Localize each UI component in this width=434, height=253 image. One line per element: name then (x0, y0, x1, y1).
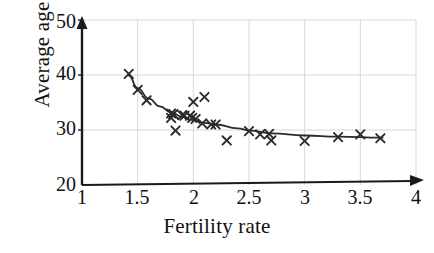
fitted-curve (129, 76, 383, 138)
x-tick-label-1-5: 1.5 (117, 186, 157, 209)
gridlines (82, 20, 416, 185)
x-tick-label-4: 4 (396, 186, 434, 209)
x-tick-label-2-5: 2.5 (229, 186, 269, 209)
y-tick-label-30: 30 (30, 117, 76, 140)
x-axis-line (82, 181, 413, 185)
x-axis-label: Fertility rate (0, 214, 434, 239)
y-tick-label-50: 50 (30, 10, 76, 33)
data-point-marker (125, 70, 133, 78)
y-axis-arrow (77, 16, 88, 29)
x-axis-arrow (410, 175, 424, 186)
axis-lines (77, 16, 425, 186)
data-point-marker (171, 126, 179, 134)
data-point-marker (223, 136, 231, 144)
y-tick-label-40: 40 (30, 62, 76, 85)
x-tick-label-2: 2 (174, 186, 214, 209)
data-point-marker (200, 93, 208, 101)
x-tick-label-3-5: 3.5 (340, 186, 380, 209)
data-point-marker (267, 136, 275, 144)
chart-figure: Average age 50 40 30 20 1 1.5 2 2.5 3 3.… (0, 0, 434, 253)
trend-line (129, 76, 383, 138)
x-tick-label-3: 3 (285, 186, 325, 209)
x-tick-label-1: 1 (62, 186, 102, 209)
